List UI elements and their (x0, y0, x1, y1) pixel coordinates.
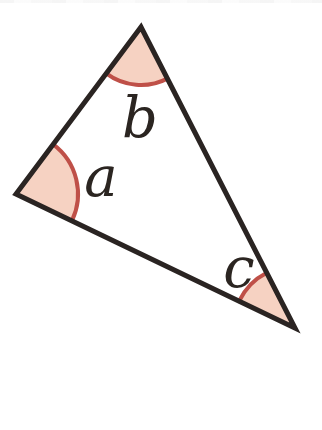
angle-label-c: c (223, 240, 254, 296)
angle-label-a: a (84, 149, 117, 205)
triangle-diagram: a b c (0, 0, 322, 430)
triangle-figure-svg (0, 0, 322, 430)
angle-label-b: b (122, 90, 158, 146)
